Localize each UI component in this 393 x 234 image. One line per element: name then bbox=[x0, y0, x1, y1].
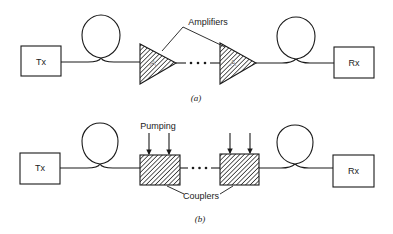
dot bbox=[205, 167, 208, 170]
amplifier-1 bbox=[140, 44, 176, 84]
receiver-label: Rx bbox=[348, 166, 359, 176]
fiber-line bbox=[256, 17, 334, 63]
dot bbox=[198, 167, 201, 170]
couplers-callout-label: Couplers bbox=[183, 191, 220, 201]
dot bbox=[197, 62, 200, 65]
amplifier-label: A bbox=[150, 58, 156, 68]
amplifiers-callout-label: Amplifiers bbox=[188, 17, 228, 27]
callout-line bbox=[220, 186, 233, 194]
diagram-b bbox=[20, 123, 374, 194]
amplifier-2 bbox=[220, 43, 256, 84]
callout-line bbox=[167, 186, 184, 194]
transmitter-label: Tx bbox=[36, 57, 46, 67]
coupler-2 bbox=[220, 154, 259, 185]
fiber-line bbox=[259, 125, 333, 168]
dot bbox=[192, 167, 195, 170]
dot bbox=[190, 62, 193, 65]
pumping-label: Pumping bbox=[140, 121, 176, 131]
caption-b: (b) bbox=[195, 214, 206, 224]
fiber-line bbox=[61, 15, 140, 62]
transmitter-label: Tx bbox=[35, 163, 45, 173]
optical-link-diagrams: Tx Rx A A Amplifiers (a) Tx Rx Pumping C… bbox=[0, 0, 393, 234]
fiber-line bbox=[60, 123, 140, 168]
amplifier-label: A bbox=[230, 58, 236, 68]
coupler-1 bbox=[140, 155, 180, 185]
receiver-label: Rx bbox=[349, 58, 360, 68]
caption-a: (a) bbox=[191, 93, 202, 103]
callout-line bbox=[162, 27, 225, 51]
dot bbox=[204, 62, 207, 65]
